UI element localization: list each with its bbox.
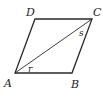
vertex-label-c: C — [93, 6, 102, 19]
angle-label-s: s — [79, 28, 84, 38]
parallelogram-diagram: A B C D r s — [0, 0, 103, 100]
angle-label-r: r — [28, 64, 33, 74]
vertex-label-d: D — [25, 6, 35, 19]
vertex-label-a: A — [3, 77, 12, 90]
vertex-label-b: B — [70, 78, 79, 91]
